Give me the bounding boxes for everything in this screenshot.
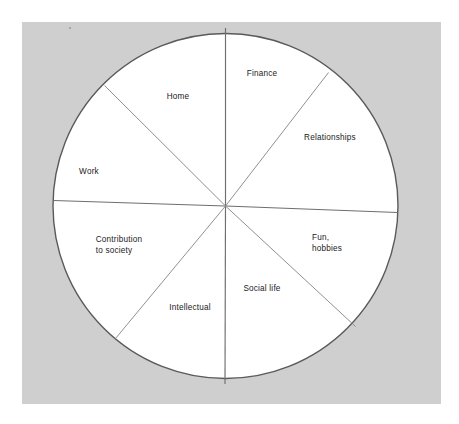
segment-label-finance: Finance — [247, 69, 278, 80]
wheel-diagram-svg — [0, 0, 459, 424]
segment-label-contribution-to-society: Contribution to society — [96, 235, 143, 256]
segment-label-home: Home — [167, 92, 190, 103]
segment-label-work: Work — [79, 167, 99, 178]
segment-label-relationships: Relationships — [304, 133, 356, 144]
scan-speck — [69, 27, 71, 29]
segment-label-intellectual: Intellectual — [169, 303, 211, 314]
wheel-of-life-figure: Finance Relationships Fun, hobbies Socia… — [0, 0, 459, 424]
segment-label-fun-hobbies: Fun, hobbies — [312, 233, 342, 254]
divider-vertical-lower — [225, 206, 226, 384]
segment-label-social-life: Social life — [243, 284, 280, 295]
